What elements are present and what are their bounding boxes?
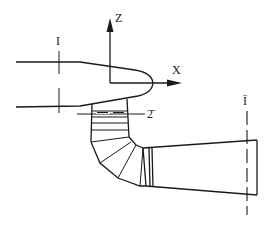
outlet-top-wall [143,140,257,148]
x-axis-label: X [172,63,181,77]
elbow-segment-line [118,145,136,178]
rib-line [91,137,129,142]
section-mid: 2̄ [77,107,155,121]
section-mid-label: 2̄ [147,107,155,121]
outlet-diffuser [143,140,257,195]
section-inlet: I [56,34,60,113]
bend-left-wall [91,104,92,142]
z-axis-label: Z [115,11,122,25]
elbow-segment-line [100,142,131,163]
duct-bend-diagram: Z X I 2̄ [0,0,268,228]
elbow-outer-wall [91,142,146,186]
outlet-flange-line [152,148,153,187]
segmented-elbow [91,137,146,186]
outlet-bottom-wall [146,186,257,195]
outlet-flange-line [143,148,146,186]
elbow-segment-line [140,148,143,186]
section-outlet: Ī [243,94,247,215]
bend-vertical-section [91,99,129,142]
inlet-outline [16,62,153,107]
section-inlet-label: I [56,34,60,48]
z-axis-arrow-icon [107,18,114,32]
outlet-flange-line [149,148,150,187]
coordinate-axes: Z X [107,11,183,87]
bend-right-wall [127,99,129,137]
section-outlet-label: Ī [243,94,247,108]
inlet-nozzle [16,62,153,107]
x-axis-arrow-icon [167,80,182,87]
